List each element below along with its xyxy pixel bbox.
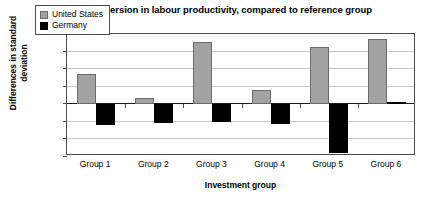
x-tick-mark xyxy=(358,104,359,108)
legend-item-germany: Germany xyxy=(40,20,103,31)
gridline xyxy=(67,138,414,139)
bar-united-states-group-3 xyxy=(193,42,212,104)
x-tick-mark xyxy=(300,104,301,108)
chart-legend: United States Germany xyxy=(35,5,110,35)
zero-line xyxy=(67,103,414,104)
bar-united-states-group-6 xyxy=(368,39,387,103)
bar-united-states-group-1 xyxy=(77,74,96,104)
gridline xyxy=(67,51,414,52)
legend-swatch-icon-germany xyxy=(40,22,48,30)
y-tick-mark xyxy=(63,138,67,139)
y-tick-mark xyxy=(63,51,67,52)
x-tick-label-group-4: Group 4 xyxy=(240,159,300,169)
bar-united-states-group-4 xyxy=(252,90,271,104)
x-tick-label-group-3: Group 3 xyxy=(181,159,241,169)
bar-united-states-group-2 xyxy=(135,98,154,103)
bar-germany-group-3 xyxy=(212,104,231,122)
x-tick-label-group-5: Group 5 xyxy=(298,159,358,169)
y-axis-title: Differences in standard deviation xyxy=(8,3,30,123)
y-tick-mark xyxy=(63,121,67,122)
plot-area xyxy=(66,33,415,155)
legend-swatch-icon-united-states xyxy=(40,11,48,19)
x-tick-mark xyxy=(125,104,126,108)
legend-label-united-states: United States xyxy=(52,10,103,19)
x-tick-mark xyxy=(242,104,243,108)
y-tick-mark xyxy=(63,68,67,69)
gridline xyxy=(67,86,414,87)
x-tick-label-group-2: Group 2 xyxy=(123,159,183,169)
gridline xyxy=(67,121,414,122)
bar-germany-group-5 xyxy=(329,104,348,154)
legend-label-germany: Germany xyxy=(52,21,87,30)
x-tick-label-group-6: Group 6 xyxy=(356,159,416,169)
y-tick-mark xyxy=(63,156,67,157)
bar-germany-group-1 xyxy=(96,104,115,125)
bar-germany-group-6 xyxy=(387,102,406,104)
legend-item-united-states: United States xyxy=(40,9,103,20)
gridline xyxy=(67,68,414,69)
chart-container: Relative dispersion in labour productivi… xyxy=(0,0,424,209)
bar-united-states-group-5 xyxy=(310,47,329,104)
bar-germany-group-2 xyxy=(154,104,173,123)
y-tick-mark xyxy=(63,103,67,104)
bar-germany-group-4 xyxy=(271,104,290,124)
x-tick-label-group-1: Group 1 xyxy=(65,159,125,169)
x-axis-title: Investment group xyxy=(66,180,415,190)
x-tick-mark xyxy=(183,104,184,108)
y-tick-mark xyxy=(63,86,67,87)
